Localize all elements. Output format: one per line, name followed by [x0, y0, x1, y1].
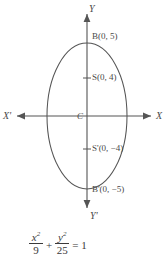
ellipse-diagram-svg — [0, 0, 168, 222]
point-label-vertex-top: B(0, 5) — [92, 32, 118, 41]
axis-label-x-positive: X — [156, 111, 162, 121]
x-axis — [17, 113, 151, 120]
y-exponent: 2 — [63, 230, 67, 238]
ellipse-equation: x2 9 + y2 25 = 1 — [28, 230, 148, 257]
x-exponent: 2 — [37, 230, 41, 238]
equation-operator: + — [46, 237, 52, 251]
fraction-y-numerator: y2 — [56, 231, 68, 244]
fraction-y-denominator: 25 — [57, 244, 68, 256]
fraction-x-numerator: x2 — [30, 231, 42, 244]
point-label-focus-bottom: S'(0, −4) — [92, 144, 123, 153]
fraction-y-term: y2 25 — [55, 231, 69, 257]
origin-label-c: C — [77, 112, 83, 121]
fraction-x-denominator: 9 — [33, 244, 39, 256]
axis-label-x-negative: X' — [3, 111, 11, 121]
figure-canvas: X' X Y Y' C B(0, 5) S(0, 4) S'(0, −4) B'… — [0, 0, 168, 257]
equation-equals-one: = 1 — [72, 237, 86, 251]
fraction-x-term: x2 9 — [29, 231, 43, 257]
point-label-vertex-bottom: B'(0, −5) — [92, 185, 124, 194]
point-label-focus-top: S(0, 4) — [92, 73, 117, 82]
axis-label-y-negative: Y' — [90, 211, 98, 221]
axis-label-y-positive: Y — [89, 4, 95, 14]
